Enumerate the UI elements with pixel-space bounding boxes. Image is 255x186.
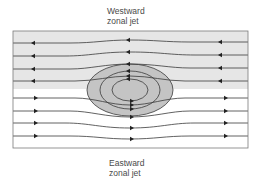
eastward-jet-label-line1: Eastward <box>109 158 144 168</box>
eastward-jet-label: Eastward zonal jet <box>109 158 144 178</box>
arrow-right-icon <box>34 134 38 138</box>
arrow-right-icon <box>224 121 228 125</box>
arrow-right-icon <box>224 96 228 100</box>
eastward-arrows <box>34 96 228 141</box>
arrow-right-icon <box>34 96 38 100</box>
arrow-right-icon <box>130 137 134 141</box>
arrow-right-icon <box>34 121 38 125</box>
arrow-right-icon <box>130 126 134 130</box>
arrow-right-icon <box>224 134 228 138</box>
arrow-right-icon <box>34 109 38 113</box>
arrow-right-icon <box>224 109 228 113</box>
eastward-jet-label-line2: zonal jet <box>109 168 144 178</box>
